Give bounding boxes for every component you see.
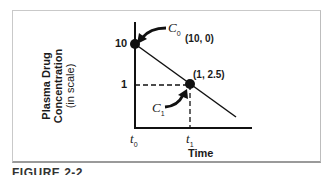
y-axis-title-line1: Plasma Drug xyxy=(40,31,52,141)
decay-line xyxy=(135,44,236,117)
point-c1 xyxy=(185,79,195,89)
figure-caption: FIGURE 2-2 xyxy=(12,166,83,175)
arrow-c1-icon xyxy=(165,95,183,107)
x-tick-t1: t1 xyxy=(186,131,194,148)
y-axis-title: Plasma Drug Concentration (in scale) xyxy=(40,31,76,141)
c0-coords: (10, 0) xyxy=(185,33,214,44)
y-tick-1: 1 xyxy=(121,78,127,90)
x-axis-title: Time xyxy=(188,147,213,159)
c1-coords: (1, 2.5) xyxy=(193,69,225,80)
y-axis-title-line3: (in scale) xyxy=(64,31,76,141)
c0-label: C0 xyxy=(168,20,181,37)
y-tick-10: 10 xyxy=(115,37,127,49)
x-tick-t0: t0 xyxy=(130,131,138,148)
c1-label: C1 xyxy=(152,100,165,117)
arrow-c0-icon xyxy=(142,28,166,38)
y-axis-title-line2: Concentration xyxy=(52,31,64,141)
